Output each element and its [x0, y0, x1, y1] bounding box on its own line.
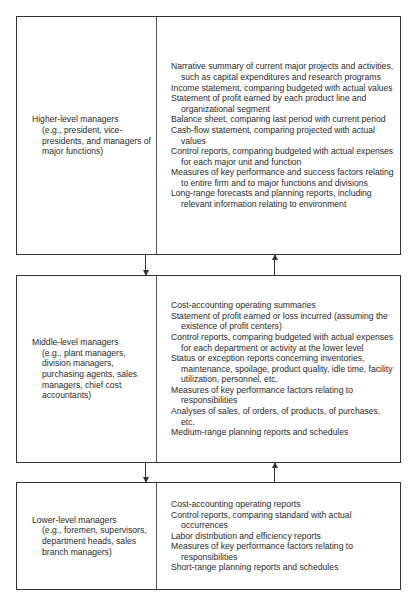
- lower-level-reports-list: Cost-accounting operating reports Contro…: [171, 499, 396, 573]
- report-item: Measures of key performance factors rela…: [171, 541, 396, 562]
- lower-level-label: Lower-level managers (e.g., foremen, sup…: [32, 515, 156, 557]
- report-item: Cost-accounting operating reports: [171, 499, 396, 510]
- higher-level-label-cell: Higher-level managers (e.g., president, …: [17, 17, 157, 254]
- report-item: Control reports, comparing budgeted with…: [171, 146, 396, 167]
- report-item: Balance sheet, comparing last period wit…: [171, 114, 396, 125]
- report-item: Income statement, comparing budgeted wit…: [171, 83, 396, 94]
- middle-level-label: Middle-level managers (e.g., plant manag…: [32, 337, 156, 401]
- report-item: Control reports, comparing budgeted with…: [171, 332, 396, 353]
- higher-level-reports-cell: Narrative summary of current major proje…: [157, 17, 400, 254]
- down-arrow-icon: [145, 255, 146, 275]
- up-arrow-icon: [274, 463, 275, 482]
- report-item: Measures of key performance and success …: [171, 167, 396, 188]
- report-item: Narrative summary of current major proje…: [171, 61, 396, 82]
- middle-level-reports-list: Cost-accounting operating summaries Stat…: [171, 300, 396, 438]
- lower-level-reports-cell: Cost-accounting operating reports Contro…: [157, 483, 400, 589]
- report-item: Statement of profit earned or loss incur…: [171, 311, 396, 332]
- report-item: Medium-range planning reports and schedu…: [171, 427, 396, 438]
- report-item: Analyses of sales, of orders, of product…: [171, 406, 396, 427]
- level-examples: (e.g., plant managers, division managers…: [32, 348, 156, 401]
- report-item: Status or exception reports concerning i…: [171, 353, 396, 385]
- report-item: Control reports, comparing standard with…: [171, 510, 396, 531]
- middle-level-box: Middle-level managers (e.g., plant manag…: [16, 275, 401, 463]
- report-item: Labor distribution and efficiency report…: [171, 531, 396, 542]
- report-item: Cost-accounting operating summaries: [171, 300, 396, 311]
- report-item: Measures of key performance factors rela…: [171, 385, 396, 406]
- level-examples: (e.g., president, vice-presidents, and m…: [32, 125, 156, 157]
- level-title: Lower-level managers: [32, 515, 156, 526]
- level-title: Middle-level managers: [32, 337, 156, 348]
- higher-level-label: Higher-level managers (e.g., president, …: [32, 114, 156, 156]
- lower-level-label-cell: Lower-level managers (e.g., foremen, sup…: [17, 483, 157, 589]
- report-item: Statement of profit earned by each produ…: [171, 93, 396, 114]
- lower-level-box: Lower-level managers (e.g., foremen, sup…: [16, 482, 401, 590]
- middle-level-reports-cell: Cost-accounting operating summaries Stat…: [157, 276, 400, 462]
- report-item: Long-range forecasts and planning report…: [171, 188, 396, 209]
- level-examples: (e.g., foremen, supervisors, department …: [32, 525, 156, 557]
- level-title: Higher-level managers: [32, 114, 156, 125]
- middle-level-label-cell: Middle-level managers (e.g., plant manag…: [17, 276, 157, 462]
- up-arrow-icon: [274, 255, 275, 275]
- report-item: Cash-flow statement, comparing projected…: [171, 125, 396, 146]
- report-item: Short-range planning reports and schedul…: [171, 562, 396, 573]
- down-arrow-icon: [145, 463, 146, 482]
- higher-level-reports-list: Narrative summary of current major proje…: [171, 61, 396, 209]
- higher-level-box: Higher-level managers (e.g., president, …: [16, 16, 401, 255]
